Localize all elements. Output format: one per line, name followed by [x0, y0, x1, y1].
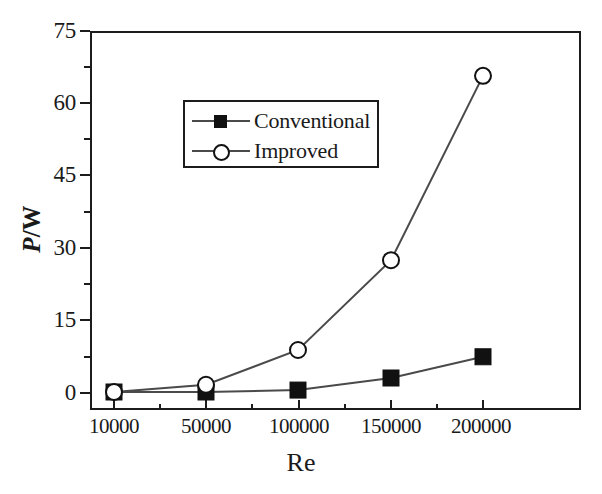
x-tick-minor-2 [251, 404, 253, 410]
y-axis-title-symbol: P [18, 237, 45, 252]
chart-figure: 0 15 30 45 60 75 10000 50000 100000 1500… [0, 0, 602, 494]
y-tick-minor-52_5 [84, 138, 90, 140]
y-tick-minor-7_5 [84, 356, 90, 358]
y-tick-major-0 [80, 392, 90, 394]
y-axis-tick-label-45: 45 [54, 163, 76, 186]
legend-label-improved: Improved [254, 140, 338, 162]
x-tick-major-10000 [113, 400, 115, 410]
y-tick-major-75 [80, 30, 90, 32]
x-axis-tick-label-100000: 100000 [269, 416, 329, 437]
y-axis-tick-label-0: 0 [65, 381, 76, 404]
y-tick-major-45 [80, 174, 90, 176]
legend-label-conventional: Conventional [254, 110, 370, 132]
y-tick-minor-37_5 [84, 211, 90, 213]
filled-square-icon [192, 111, 250, 131]
x-axis-tick-label-10000: 10000 [89, 416, 139, 437]
y-axis-tick-label-75: 75 [54, 19, 76, 42]
x-tick-major-200000 [482, 400, 484, 410]
x-tick-major-50000 [205, 400, 207, 410]
open-circle-icon [192, 141, 250, 161]
y-tick-major-30 [80, 247, 90, 249]
y-tick-minor-67_5 [84, 66, 90, 68]
x-tick-minor-1 [159, 404, 161, 410]
y-axis-tick-label-60: 60 [54, 91, 76, 114]
y-axis-title-unit: W [18, 205, 45, 230]
x-axis-tick-label-50000: 50000 [181, 416, 231, 437]
plot-area-frame [90, 31, 581, 410]
chart-legend: Conventional Improved [183, 100, 379, 168]
y-axis-title-separator: / [18, 230, 45, 237]
y-tick-major-15 [80, 319, 90, 321]
x-tick-major-150000 [390, 400, 392, 410]
y-axis-tick-label-15: 15 [54, 308, 76, 331]
x-tick-minor-3 [344, 404, 346, 410]
legend-item-conventional: Conventional [185, 106, 377, 136]
y-axis-tick-label-30: 30 [54, 236, 76, 259]
y-axis-title: P/W [18, 189, 46, 269]
y-tick-minor-22_5 [84, 283, 90, 285]
y-tick-major-60 [80, 102, 90, 104]
legend-item-improved: Improved [185, 136, 377, 166]
x-axis-tick-label-150000: 150000 [361, 416, 421, 437]
x-axis-title: Re [0, 448, 602, 478]
x-tick-major-100000 [298, 400, 300, 410]
x-tick-minor-4 [436, 404, 438, 410]
x-axis-tick-label-200000: 200000 [451, 416, 511, 437]
